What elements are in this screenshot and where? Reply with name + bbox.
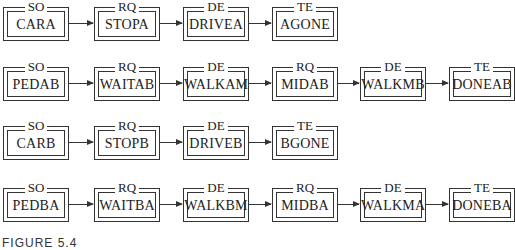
state-name: DONEAB (450, 77, 514, 93)
arrow-right-icon (69, 23, 93, 24)
arrow-right-icon (160, 142, 182, 143)
state-name: AGONE (273, 17, 337, 33)
state-type-label: DE (361, 60, 425, 74)
state-type-text: DE (204, 0, 227, 14)
state-name: PEDAB (4, 77, 68, 93)
arrow-right-icon (160, 83, 182, 84)
state-name: STOPB (95, 136, 159, 152)
state-type-label: DE (184, 0, 248, 14)
state-type-label: SO (4, 60, 68, 74)
arrow-right-icon (160, 204, 182, 205)
state-box: RQWAITBA (94, 188, 160, 222)
arrow-right-icon (338, 83, 359, 84)
arrow-right-icon (249, 23, 271, 24)
state-type-text: RQ (115, 180, 139, 195)
state-type-text: RQ (293, 180, 317, 195)
state-type-label: TE (273, 119, 337, 133)
state-name: WAITAB (95, 77, 159, 93)
state-box: DEWALKBM (183, 188, 249, 222)
state-type-label: RQ (95, 0, 159, 14)
arrow-right-icon (160, 23, 182, 24)
arrow-right-icon (69, 142, 93, 143)
state-type-text: DE (204, 59, 227, 74)
state-name: BGONE (273, 136, 337, 152)
state-name: WALKMB (361, 77, 425, 93)
state-type-label: SO (4, 0, 68, 14)
state-name: PEDBA (4, 198, 68, 214)
state-type-label: RQ (273, 181, 337, 195)
state-box: RQWAITAB (94, 67, 160, 101)
state-type-label: RQ (95, 181, 159, 195)
state-type-text: TE (294, 0, 316, 14)
state-type-text: RQ (115, 118, 139, 133)
state-type-label: DE (184, 181, 248, 195)
state-box: DEDRIVEB (183, 126, 249, 160)
state-type-text: RQ (293, 59, 317, 74)
state-box: TEBGONE (272, 126, 338, 160)
state-type-text: SO (25, 59, 48, 74)
state-type-label: DE (361, 181, 425, 195)
state-name: WALKMA (361, 198, 425, 214)
state-type-label: DE (184, 119, 248, 133)
state-type-text: DE (204, 118, 227, 133)
figure-caption: FIGURE 5.4 (2, 236, 77, 250)
state-type-text: DE (381, 59, 404, 74)
state-type-text: SO (25, 180, 48, 195)
state-box: DEWALKMA (360, 188, 426, 222)
state-box: DEDRIVEA (183, 7, 249, 41)
state-type-label: SO (4, 119, 68, 133)
arrow-right-icon (249, 204, 271, 205)
state-box: SOCARB (3, 126, 69, 160)
state-name: CARB (4, 136, 68, 152)
state-type-label: TE (450, 60, 514, 74)
state-type-text: DE (381, 180, 404, 195)
state-box: TEDONEAB (449, 67, 515, 101)
state-box: RQSTOPA (94, 7, 160, 41)
state-box: SOPEDAB (3, 67, 69, 101)
state-name: DONEBA (450, 198, 514, 214)
state-box: RQMIDBA (272, 188, 338, 222)
arrow-right-icon (249, 142, 271, 143)
state-box: TEDONEBA (449, 188, 515, 222)
state-name: WALKAM (184, 77, 248, 93)
state-type-text: RQ (115, 59, 139, 74)
state-box: RQMIDAB (272, 67, 338, 101)
state-box: TEAGONE (272, 7, 338, 41)
state-type-label: RQ (273, 60, 337, 74)
arrow-right-icon (69, 204, 93, 205)
state-type-label: TE (273, 0, 337, 14)
state-box: DEWALKAM (183, 67, 249, 101)
state-name: MIDAB (273, 77, 337, 93)
state-type-text: TE (294, 118, 316, 133)
arrow-right-icon (426, 204, 448, 205)
state-type-text: DE (204, 180, 227, 195)
state-name: CARA (4, 17, 68, 33)
state-name: WAITBA (95, 198, 159, 214)
state-type-label: RQ (95, 60, 159, 74)
state-name: DRIVEA (184, 17, 248, 33)
state-box: SOCARA (3, 7, 69, 41)
state-name: WALKBM (184, 198, 248, 214)
state-box: RQSTOPB (94, 126, 160, 160)
state-type-text: TE (471, 59, 493, 74)
arrow-right-icon (249, 83, 271, 84)
state-name: DRIVEB (184, 136, 248, 152)
state-box: DEWALKMB (360, 67, 426, 101)
arrow-right-icon (338, 204, 359, 205)
state-name: STOPA (95, 17, 159, 33)
state-type-text: TE (471, 180, 493, 195)
state-box: SOPEDBA (3, 188, 69, 222)
state-type-label: DE (184, 60, 248, 74)
state-type-label: RQ (95, 119, 159, 133)
state-type-text: SO (25, 0, 48, 14)
arrow-right-icon (426, 83, 448, 84)
state-name: MIDBA (273, 198, 337, 214)
arrow-right-icon (69, 83, 93, 84)
state-type-text: SO (25, 118, 48, 133)
state-type-label: SO (4, 181, 68, 195)
state-type-text: RQ (115, 0, 139, 14)
state-type-label: TE (450, 181, 514, 195)
